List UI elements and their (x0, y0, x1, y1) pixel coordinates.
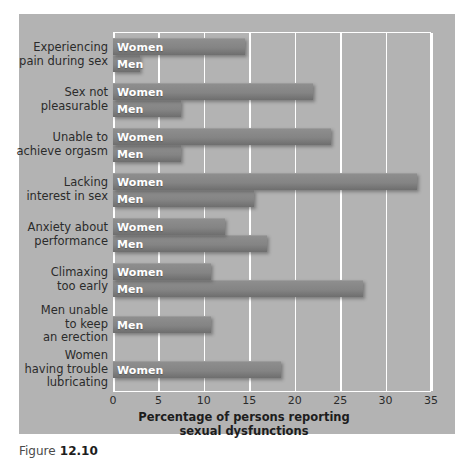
x-axis-title: Percentage of persons reporting sexual d… (59, 410, 429, 438)
bar-group: WomenMen (113, 167, 431, 212)
category-label: Women having trouble lubricating (0, 349, 108, 390)
chart-categories: Experiencing pain during sexWomenMenSex … (19, 32, 455, 392)
x-axis-title-line1: Percentage of persons reporting (59, 410, 429, 424)
bar-series-label: Women (117, 130, 164, 145)
bar-men[interactable]: Men (113, 280, 363, 297)
bar-series-label: Men (117, 237, 144, 252)
bar-series-label: Men (117, 57, 144, 72)
category-group: Lacking interest in sexWomenMen (19, 167, 455, 212)
bar-women[interactable]: Women (113, 173, 417, 190)
bar-women[interactable]: Women (113, 83, 313, 100)
bar-group: Women (113, 347, 431, 392)
x-tick-label-25: 25 (333, 394, 347, 407)
category-group: Unable to achieve orgasmWomenMen (19, 122, 455, 167)
x-tick-label-0: 0 (110, 394, 117, 407)
category-group: Anxiety about performanceWomenMen (19, 212, 455, 257)
bar-women[interactable]: Women (113, 128, 331, 145)
bar-group: WomenMen (113, 212, 431, 257)
caption-prefix: Figure (19, 444, 56, 458)
x-tick-label-30: 30 (379, 394, 393, 407)
bar-series-label: Women (117, 363, 164, 378)
bar-series-label: Women (117, 265, 164, 280)
bar-men[interactable]: Men (113, 145, 181, 162)
category-group: Men unable to keep an erectionMen (19, 302, 455, 347)
category-label: Men unable to keep an erection (0, 304, 108, 345)
bar-series-label: Men (117, 318, 144, 333)
bar-women[interactable]: Women (113, 263, 211, 280)
bar-series-label: Women (117, 85, 164, 100)
bar-group: WomenMen (113, 77, 431, 122)
category-label: Sex not pleasurable (0, 86, 108, 113)
bar-men[interactable]: Men (113, 190, 254, 207)
category-label: Lacking interest in sex (0, 176, 108, 203)
bar-men[interactable]: Men (113, 235, 267, 252)
figure-panel: Experiencing pain during sexWomenMenSex … (19, 14, 455, 434)
bar-series-label: Women (117, 40, 164, 55)
bar-group: WomenMen (113, 257, 431, 302)
category-label: Anxiety about performance (0, 221, 108, 248)
bar-men[interactable]: Men (113, 316, 211, 333)
x-tick-label-20: 20 (288, 394, 302, 407)
bar-group: WomenMen (113, 32, 431, 77)
x-tick-label-10: 10 (197, 394, 211, 407)
bar-series-label: Men (117, 102, 144, 117)
bar-series-label: Women (117, 220, 164, 235)
category-label: Experiencing pain during sex (0, 41, 108, 68)
x-axis-ticks: 05101520253035 (113, 394, 431, 410)
bar-women[interactable]: Women (113, 218, 225, 235)
bar-group: WomenMen (113, 122, 431, 167)
bar-series-label: Men (117, 282, 144, 297)
x-tick-label-15: 15 (242, 394, 256, 407)
x-tick-label-5: 5 (155, 394, 162, 407)
category-group: Climaxing too earlyWomenMen (19, 257, 455, 302)
x-tick-label-35: 35 (424, 394, 438, 407)
bar-men[interactable]: Men (113, 100, 181, 117)
category-label: Unable to achieve orgasm (0, 131, 108, 158)
bar-series-label: Men (117, 147, 144, 162)
bar-series-label: Men (117, 192, 144, 207)
category-label: Climaxing too early (0, 266, 108, 293)
bar-women[interactable]: Women (113, 361, 281, 378)
bar-group: Men (113, 302, 431, 347)
category-group: Sex not pleasurableWomenMen (19, 77, 455, 122)
category-group: Experiencing pain during sexWomenMen (19, 32, 455, 77)
bar-series-label: Women (117, 175, 164, 190)
figure-caption: Figure 12.10 (19, 444, 98, 460)
caption-number: 12.10 (60, 444, 98, 458)
category-group: Women having trouble lubricatingWomen (19, 347, 455, 392)
bar-women[interactable]: Women (113, 38, 245, 55)
bar-men[interactable]: Men (113, 55, 140, 72)
x-axis-title-line2: sexual dysfunctions (59, 424, 429, 438)
